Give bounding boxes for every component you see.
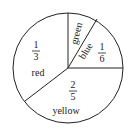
pie-chart: green blue 1 6 1 3 red 2 5 yellow: [0, 0, 131, 131]
fraction-blue-denominator: 6: [100, 53, 105, 64]
fraction-red-numerator: 1: [34, 39, 39, 50]
fraction-blue-numerator: 1: [100, 41, 105, 52]
fraction-yellow-denominator: 5: [71, 91, 76, 102]
fraction-yellow-numerator: 2: [71, 79, 76, 90]
fraction-red-denominator: 3: [34, 51, 39, 62]
label-yellow: yellow: [52, 105, 80, 116]
label-red: red: [32, 67, 45, 78]
